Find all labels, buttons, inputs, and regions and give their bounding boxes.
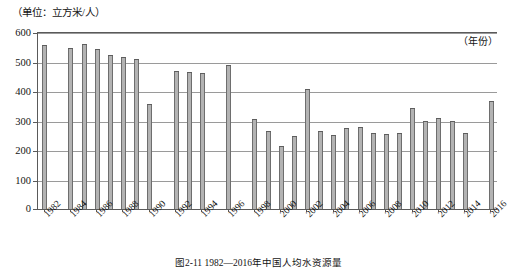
figure-caption: 图2-11 1982—2016年中国人均水资源量 bbox=[0, 258, 517, 269]
x-axis-title: （年份） bbox=[458, 33, 498, 48]
plot-area: 0100200300400500600 bbox=[37, 32, 497, 209]
bar-2003 bbox=[318, 131, 323, 209]
bar-1987 bbox=[108, 55, 113, 209]
bar-1999 bbox=[266, 131, 271, 209]
bar-2005 bbox=[344, 128, 349, 209]
bar-2009 bbox=[397, 133, 402, 209]
bar-2011 bbox=[423, 121, 428, 209]
bar-1982 bbox=[42, 45, 47, 209]
bar-2004 bbox=[331, 135, 336, 209]
figure-bar-chart: （单位：立方米/人） 0100200300400500600 198219841… bbox=[0, 0, 517, 269]
bar-1985 bbox=[82, 44, 87, 209]
bar-1990 bbox=[147, 104, 152, 209]
y-axis-label-100: 100 bbox=[15, 175, 31, 186]
bar-1988 bbox=[121, 57, 126, 209]
bar-2014 bbox=[463, 133, 468, 209]
bar-1992 bbox=[174, 71, 179, 209]
bar-2001 bbox=[292, 136, 297, 209]
bar-1986 bbox=[95, 49, 100, 209]
bar-2008 bbox=[384, 134, 389, 209]
bar-2002 bbox=[305, 89, 310, 209]
y-axis-label-200: 200 bbox=[15, 146, 31, 157]
y-axis-label-400: 400 bbox=[15, 87, 31, 98]
bar-1994 bbox=[200, 73, 205, 209]
bar-1993 bbox=[187, 72, 192, 209]
y-axis-label-500: 500 bbox=[15, 57, 31, 68]
bar-2012 bbox=[436, 118, 441, 209]
bar-2006 bbox=[358, 127, 363, 209]
unit-label: （单位：立方米/人） bbox=[12, 6, 105, 19]
bar-2010 bbox=[410, 108, 415, 209]
bar-1989 bbox=[134, 59, 139, 209]
y-axis-label-600: 600 bbox=[15, 28, 31, 39]
bar-2000 bbox=[279, 146, 284, 209]
bar-2016 bbox=[489, 101, 494, 209]
bar-1984 bbox=[68, 48, 73, 209]
bar-2013 bbox=[450, 121, 455, 209]
y-axis-label-300: 300 bbox=[15, 116, 31, 127]
bar-1996 bbox=[226, 65, 231, 209]
bar-2007 bbox=[371, 133, 376, 209]
bar-series bbox=[38, 33, 497, 209]
bar-1998 bbox=[252, 119, 257, 209]
